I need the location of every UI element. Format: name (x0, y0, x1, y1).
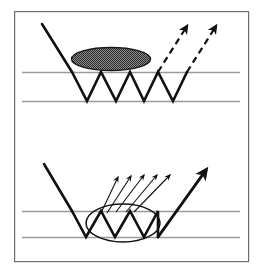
schematic-diagram (0, 0, 262, 277)
scattering-region-dark-ellipse (72, 48, 151, 71)
figure-container (0, 0, 262, 277)
